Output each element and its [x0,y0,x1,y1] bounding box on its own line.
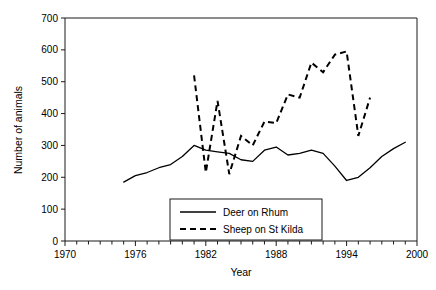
legend-label: Sheep on St Kilda [223,224,303,235]
x-tick-label: 1988 [265,249,288,260]
y-axis-ticks [61,18,65,241]
y-axis-title: Number of animals [12,86,24,174]
x-axis-title: Year [230,266,252,278]
y-tick-label: 100 [41,204,58,215]
chart-figure: 0100200300400500600700 19701976198219881… [0,0,436,290]
y-tick-label: 600 [41,44,58,55]
y-tick-label: 700 [41,13,58,24]
series-line-deer-on-rhum [124,142,406,182]
x-tick-label: 1994 [335,249,358,260]
series-line-sheep-on-st-kilda [194,51,370,174]
y-axis-tick-labels: 0100200300400500600700 [41,13,58,247]
x-axis-tick-labels: 197019761982198819942000 [54,249,429,260]
x-axis-ticks [65,241,417,246]
x-tick-label: 1982 [195,249,218,260]
chart-legend: Deer on RhumSheep on St Kilda [170,199,322,240]
x-tick-label: 1970 [54,249,77,260]
legend-label: Deer on Rhum [223,207,288,218]
y-tick-label: 400 [41,108,58,119]
y-tick-label: 200 [41,172,58,183]
x-tick-label: 1976 [124,249,147,260]
line-chart: 0100200300400500600700 19701976198219881… [0,0,436,290]
data-series-layer [124,51,406,182]
y-tick-label: 300 [41,140,58,151]
y-tick-label: 500 [41,76,58,87]
x-tick-label: 2000 [406,249,429,260]
y-tick-label: 0 [52,236,58,247]
